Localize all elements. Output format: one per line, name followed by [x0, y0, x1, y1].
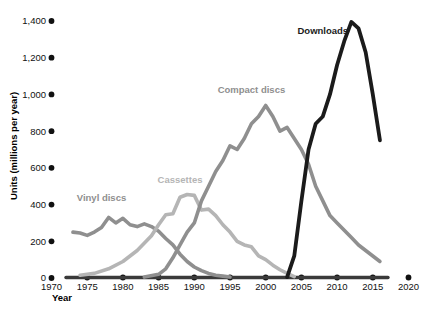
x-tick-label: 1980: [112, 281, 133, 292]
x-tick-dot: [406, 275, 412, 281]
series-line-vinyl-discs: [73, 217, 230, 277]
series-label-vinyl-discs: Vinyl discs: [77, 192, 126, 203]
series-paths: [73, 22, 380, 277]
y-tick-dot: [49, 18, 55, 24]
x-tick-label: 2000: [255, 281, 276, 292]
y-tick-dot: [49, 92, 55, 98]
y-tick-label: 1,400: [22, 15, 46, 26]
y-tick-label: 1,200: [22, 52, 46, 63]
chart-container: 02004006008001,0001,2001,400 19701975198…: [0, 0, 433, 318]
y-tick-label: 400: [30, 199, 46, 210]
x-tick-label: 1990: [184, 281, 205, 292]
y-tick-dot: [49, 238, 55, 244]
y-tick-label: 800: [30, 126, 46, 137]
y-axis-ticks: 02004006008001,0001,2001,400: [22, 15, 54, 283]
y-tick-dot: [49, 202, 55, 208]
series-label-cassettes: Cassettes: [158, 174, 203, 185]
y-tick-label: 200: [30, 236, 46, 247]
series-label-downloads: Downloads: [297, 25, 348, 36]
x-tick-label: 2005: [291, 281, 312, 292]
y-tick-label: 600: [30, 162, 46, 173]
x-tick-label: 1995: [219, 281, 240, 292]
x-tick-label: 1975: [77, 281, 98, 292]
y-tick-dot: [49, 128, 55, 134]
x-tick-label: 2015: [362, 281, 383, 292]
x-tick-label: 2010: [327, 281, 348, 292]
x-axis-title: Year: [52, 292, 72, 303]
x-tick-label: 2020: [398, 281, 419, 292]
x-tick-label: 1985: [148, 281, 169, 292]
line-chart: 02004006008001,0001,2001,400 19701975198…: [0, 0, 433, 318]
y-axis-title: Units (millions per year): [8, 92, 19, 200]
x-tick-label: 1970: [41, 281, 62, 292]
y-tick-dot: [49, 55, 55, 61]
series-label-compact-discs: Compact discs: [218, 84, 286, 95]
y-tick-dot: [49, 165, 55, 171]
y-tick-label: 1,000: [22, 89, 46, 100]
